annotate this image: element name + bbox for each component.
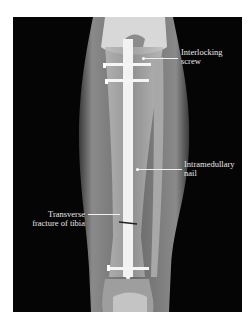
interlocking-screw-label: Interlocking screw: [181, 48, 223, 66]
intramedullary-nail-label: Intramedullary nail: [184, 160, 235, 178]
transverse-fracture-leader: [88, 214, 120, 215]
label-line: fracture of tibia: [27, 219, 85, 228]
transverse-fracture-label: Transverse fracture of tibia: [27, 210, 85, 228]
label-line: screw: [181, 57, 223, 66]
intramedullary-nail-leader: [138, 169, 182, 170]
label-line: nail: [184, 169, 235, 178]
interlocking-screw-leader: [144, 58, 178, 59]
